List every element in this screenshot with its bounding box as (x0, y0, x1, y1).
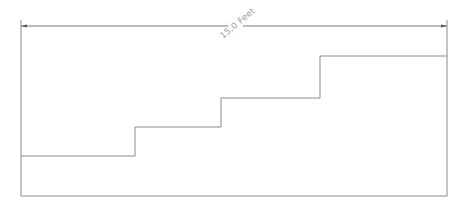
arrow-right-icon (441, 25, 447, 28)
stair-profile-line (21, 56, 447, 156)
dimension-label: 15.0 Feet (218, 5, 257, 40)
stair-diagram: 15.0 Feet (0, 0, 467, 205)
arrow-left-icon (21, 25, 27, 28)
